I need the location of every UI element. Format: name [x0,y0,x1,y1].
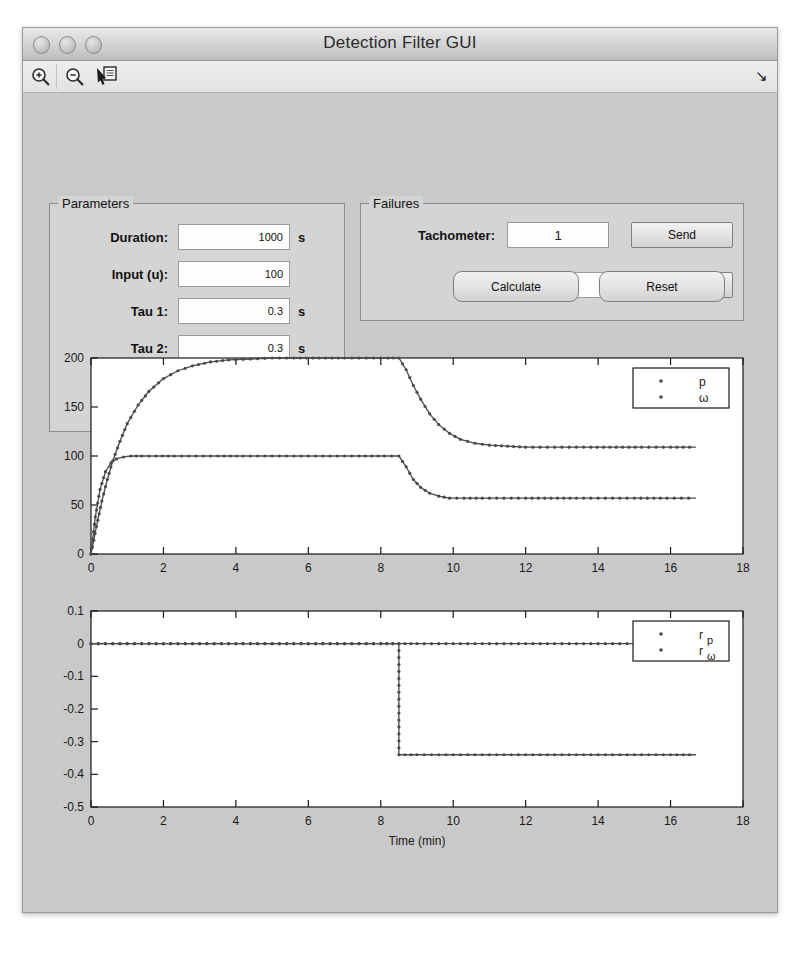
tachometer-send-button[interactable]: Send [631,222,733,248]
duration-label: Duration: [64,230,168,245]
svg-text:150: 150 [64,400,84,414]
calculate-button[interactable]: Calculate [453,271,579,302]
svg-text:-0.5: -0.5 [63,800,84,814]
failures-panel-title: Failures [369,196,423,211]
duration-input[interactable]: 1000 [178,224,290,250]
svg-text:p: p [707,634,713,646]
svg-text:50: 50 [71,498,85,512]
svg-text:0: 0 [77,547,84,561]
svg-text:4: 4 [233,561,240,575]
svg-text:Time (min): Time (min) [389,834,446,848]
svg-text:r: r [699,644,703,658]
svg-text:-0.1: -0.1 [63,669,84,683]
svg-text:14: 14 [591,814,605,828]
svg-text:8: 8 [377,561,384,575]
svg-text:r: r [699,628,703,642]
svg-text:ω: ω [699,391,708,405]
svg-text:16: 16 [664,814,678,828]
svg-text:0: 0 [77,637,84,651]
svg-text:6: 6 [305,561,312,575]
tau1-unit: s [298,304,305,319]
tachometer-input[interactable]: 1 [507,222,609,248]
svg-text:2: 2 [160,561,167,575]
svg-text:-0.2: -0.2 [63,702,84,716]
tau1-input[interactable]: 0.3 [178,298,290,324]
toolbar: ↘ [23,61,777,93]
title-bar: Detection Filter GUI [23,28,777,61]
svg-text:18: 18 [736,561,750,575]
zoom-out-icon[interactable] [61,64,88,89]
svg-text:14: 14 [591,561,605,575]
svg-text:100: 100 [64,449,84,463]
svg-text:0: 0 [88,814,95,828]
toolbar-separator [56,64,57,89]
svg-text:ω: ω [707,650,716,662]
svg-text:4: 4 [233,814,240,828]
application-window: Detection Filter GUI [22,27,778,913]
svg-text:-0.3: -0.3 [63,735,84,749]
svg-text:2: 2 [160,814,167,828]
svg-text:200: 200 [64,351,84,365]
svg-text:12: 12 [519,814,533,828]
tau1-row: Tau 1: 0.3 s [64,298,332,324]
svg-text:12: 12 [519,561,533,575]
reset-button[interactable]: Reset [599,271,725,302]
input-u-input[interactable]: 100 [178,261,290,287]
input-u-label: Input (u): [64,267,168,282]
main-content: Parameters Duration: 1000 s Input (u): 1… [23,93,777,913]
failures-panel: Failures Tachometer: 1 Send Input: 0.5 S… [360,203,744,321]
svg-text:16: 16 [664,561,678,575]
resize-arrow-icon[interactable]: ↘ [755,68,769,84]
duration-row: Duration: 1000 s [64,224,332,250]
svg-text:-0.4: -0.4 [63,767,84,781]
svg-text:10: 10 [447,561,461,575]
svg-text:6: 6 [305,814,312,828]
states-plot[interactable]: 024681012141618050100150200pω [29,348,771,596]
tau1-label: Tau 1: [64,304,168,319]
duration-unit: s [298,230,305,245]
svg-text:8: 8 [377,814,384,828]
tachometer-label: Tachometer: [373,228,495,243]
svg-text:18: 18 [736,814,750,828]
svg-text:0: 0 [88,561,95,575]
zoom-in-icon[interactable] [27,64,54,89]
data-cursor-icon[interactable] [93,64,120,89]
screenshot-root: { "window": { "title": "Detection Filter… [0,0,799,954]
parameters-panel-title: Parameters [58,196,133,211]
residuals-plot[interactable]: 0246810121416180.10-0.1-0.2-0.3-0.4-0.5T… [29,601,771,869]
svg-text:0.1: 0.1 [67,604,84,618]
svg-text:10: 10 [447,814,461,828]
svg-text:p: p [699,375,706,389]
tachometer-row: Tachometer: 1 Send [373,222,733,248]
input-u-row: Input (u): 100 [64,261,332,287]
window-title: Detection Filter GUI [23,33,777,53]
